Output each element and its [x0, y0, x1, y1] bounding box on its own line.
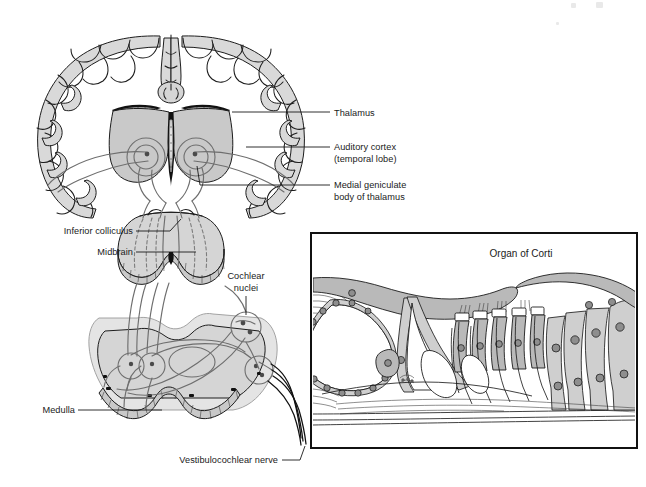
label-inferior-colliculus: Inferior colliculus	[64, 226, 134, 236]
label-medial-geniculate-body: Medial geniculate	[334, 180, 406, 190]
label-cochlear-nuclei-line2: nuclei	[234, 283, 258, 293]
thalamus-gray-mass	[109, 108, 233, 187]
label-cochlear-nuclei: Cochlear	[227, 271, 264, 281]
label-auditory-cortex-line2: (temporal lobe)	[334, 154, 397, 164]
scan-noise	[556, 2, 603, 25]
label-medulla: Medulla	[42, 405, 75, 415]
organ-of-corti-inset: Organ of Corti	[300, 233, 637, 448]
midbrain-section	[118, 210, 224, 285]
auditory-pathway-figure: Thalamus Auditory cortex (temporal lobe)…	[0, 0, 646, 487]
label-auditory-cortex: Auditory cortex	[334, 142, 396, 152]
label-thalamus: Thalamus	[334, 108, 375, 118]
inset-title: Organ of Corti	[490, 248, 553, 259]
vestibulocochlear-nerve-fibers	[268, 364, 306, 445]
septum-pellucidum	[158, 82, 184, 103]
medulla-section	[89, 283, 277, 419]
label-midbrain: Midbrain	[97, 247, 133, 257]
label-vestibulocochlear-nerve: Vestibulocochlear nerve	[179, 455, 278, 465]
cerebrum-coronal-section	[37, 35, 305, 218]
label-medial-geniculate-body-line2: body of thalamus	[334, 192, 405, 202]
